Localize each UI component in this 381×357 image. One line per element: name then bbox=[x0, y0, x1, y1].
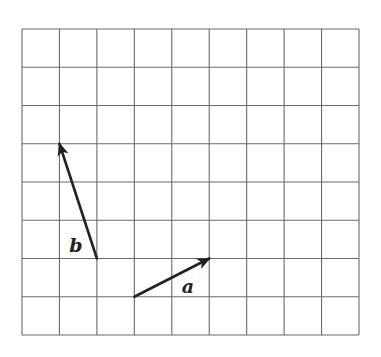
vector-diagram: a b bbox=[0, 0, 381, 357]
grid-canvas: a b bbox=[0, 0, 381, 357]
vector-b: b bbox=[59, 144, 96, 259]
vector-a-label: a bbox=[182, 275, 194, 297]
vector-b-label: b bbox=[69, 234, 82, 256]
